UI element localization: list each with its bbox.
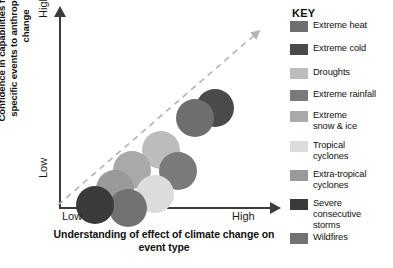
chart-screenshot: High Low Low High Confidence in capabili… <box>0 0 393 268</box>
legend-swatch-severe-consecutive-storms <box>290 199 308 210</box>
bubble-wildfires <box>109 189 147 227</box>
legend-swatch-extreme-cold <box>290 44 308 55</box>
legend-swatch-extreme-heat <box>290 21 308 32</box>
legend-item-wildfires[interactable]: Wildfires <box>290 232 393 244</box>
legend-item-tropical-cyclones[interactable]: Tropical cyclones <box>290 140 393 162</box>
x-axis-tick-low: Low <box>62 210 82 222</box>
legend-swatch-extra-tropical-cyclones <box>290 170 308 181</box>
legend-title: KEY <box>292 7 315 19</box>
legend-label-extreme-heat: Extreme heat <box>313 20 367 31</box>
legend-swatch-wildfires <box>290 233 308 244</box>
x-axis-tick-high: High <box>232 210 255 222</box>
legend: KEY Extreme heatExtreme coldDroughtsExtr… <box>288 0 393 268</box>
legend-swatch-extreme-snow-ice <box>290 111 308 122</box>
legend-label-extreme-snow-ice: Extreme snow & ice <box>313 110 357 132</box>
legend-item-extreme-heat[interactable]: Extreme heat <box>290 20 393 32</box>
bubble-extreme-heat <box>176 99 214 137</box>
plot-area: High Low Low High Confidence in capabili… <box>0 0 286 268</box>
legend-swatch-extreme-rainfall <box>290 90 308 101</box>
legend-label-extreme-cold: Extreme cold <box>313 43 366 54</box>
x-axis-arrowhead <box>270 202 281 214</box>
legend-swatch-tropical-cyclones <box>290 141 308 152</box>
legend-item-extreme-rainfall[interactable]: Extreme rainfall <box>290 89 393 101</box>
x-axis-title: Understanding of effect of climate chang… <box>46 228 282 254</box>
y-axis-line <box>59 16 61 209</box>
legend-label-extreme-rainfall: Extreme rainfall <box>313 89 376 100</box>
y-axis-tick-low: Low <box>37 158 49 178</box>
legend-item-severe-consecutive-storms[interactable]: Severe consecutive storms <box>290 198 393 231</box>
legend-label-wildfires: Wildfires <box>313 232 348 243</box>
legend-item-droughts[interactable]: Droughts <box>290 67 393 79</box>
y-axis-tick-high: High <box>37 0 49 18</box>
y-axis-arrowhead <box>54 6 66 17</box>
legend-item-extreme-snow-ice[interactable]: Extreme snow & ice <box>290 110 393 132</box>
legend-swatch-droughts <box>290 68 308 79</box>
y-axis-title: Confidence in capabilities for attributi… <box>0 0 32 132</box>
legend-item-extra-tropical-cyclones[interactable]: Extra-tropical cyclones <box>290 169 393 191</box>
legend-label-extra-tropical-cyclones: Extra-tropical cyclones <box>313 169 366 191</box>
legend-label-severe-consecutive-storms: Severe consecutive storms <box>313 198 361 231</box>
legend-label-tropical-cyclones: Tropical cyclones <box>313 140 348 162</box>
legend-item-extreme-cold[interactable]: Extreme cold <box>290 43 393 55</box>
legend-label-droughts: Droughts <box>313 67 350 78</box>
